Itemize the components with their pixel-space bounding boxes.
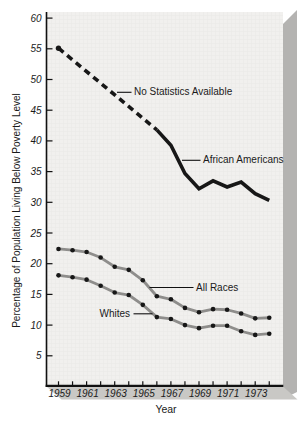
y-tick-label-20: 20: [29, 258, 42, 269]
y-tick-label-5: 5: [36, 350, 42, 361]
y-axis-title: Percentage of Population Living Below Po…: [11, 61, 22, 361]
annotation-whites: Whites: [99, 308, 130, 320]
data-point-whites-1960: [70, 275, 75, 280]
data-point-whites-1966: [155, 315, 160, 320]
data-point-whites-1967: [169, 317, 174, 322]
data-point-all-races-1967: [169, 297, 174, 302]
y-tick-label-50: 50: [30, 74, 42, 85]
data-point-whites-1965: [141, 303, 146, 308]
annotation-all-races: All Races: [196, 282, 238, 294]
data-point-all-races-1969: [197, 310, 202, 315]
poverty-chart-figure: 5101520253035404550556019591961196319651…: [0, 0, 302, 429]
data-point-whites-1959: [56, 273, 61, 278]
data-point-all-races-1961: [84, 250, 89, 255]
data-point-whites-1964: [126, 293, 131, 298]
data-point-whites-1963: [112, 290, 117, 295]
y-tick-label-35: 35: [30, 166, 42, 177]
x-tick-label-1971: 1971: [217, 388, 239, 399]
data-point-all-races-1960: [70, 248, 75, 253]
panel-grid-texture: [47, 12, 284, 387]
data-point-all-races-1962: [98, 255, 103, 260]
data-point-all-races-1964: [126, 268, 131, 273]
x-tick-label-1961: 1961: [76, 388, 98, 399]
data-point-all-races-1963: [112, 264, 117, 269]
data-point-all-races-1972: [239, 311, 244, 316]
series-start-dot: [56, 45, 61, 50]
y-tick-label-25: 25: [29, 228, 42, 239]
data-point-all-races-1974: [267, 315, 272, 320]
x-tick-label-1969: 1969: [189, 388, 212, 399]
data-point-whites-1972: [239, 329, 244, 334]
data-point-all-races-1959: [56, 247, 61, 252]
chart-canvas: 5101520253035404550556019591961196319651…: [0, 0, 302, 429]
annotation-african-americans: African Americans: [203, 154, 284, 166]
data-point-all-races-1970: [211, 307, 216, 312]
x-tick-label-1973: 1973: [245, 388, 268, 399]
y-tick-label-55: 55: [30, 43, 42, 54]
data-point-whites-1970: [211, 323, 216, 328]
data-point-whites-1961: [84, 277, 89, 282]
y-tick-label-15: 15: [30, 289, 42, 300]
data-point-whites-1969: [197, 326, 202, 331]
x-tick-label-1959: 1959: [48, 388, 71, 399]
data-point-all-races-1965: [141, 278, 146, 283]
data-point-all-races-1973: [253, 316, 258, 321]
x-tick-label-1965: 1965: [133, 388, 156, 399]
annotation-no-statistics-available: No Statistics Available: [134, 86, 232, 98]
y-tick-label-10: 10: [30, 320, 42, 331]
y-tick-label-60: 60: [30, 13, 42, 24]
data-point-all-races-1966: [155, 294, 160, 299]
data-point-whites-1971: [225, 323, 230, 328]
data-point-whites-1974: [267, 331, 272, 336]
data-point-whites-1962: [98, 284, 103, 289]
data-point-whites-1968: [183, 323, 188, 328]
panel-right-side: [283, 10, 297, 399]
data-point-all-races-1971: [225, 307, 230, 312]
data-point-all-races-1968: [183, 306, 188, 311]
x-tick-label-1963: 1963: [105, 388, 128, 399]
x-tick-label-1967: 1967: [161, 388, 184, 399]
data-point-whites-1973: [253, 333, 258, 338]
y-tick-label-40: 40: [30, 135, 42, 146]
y-tick-label-45: 45: [30, 105, 42, 116]
x-axis-title: Year: [100, 403, 232, 415]
y-tick-label-30: 30: [30, 197, 42, 208]
